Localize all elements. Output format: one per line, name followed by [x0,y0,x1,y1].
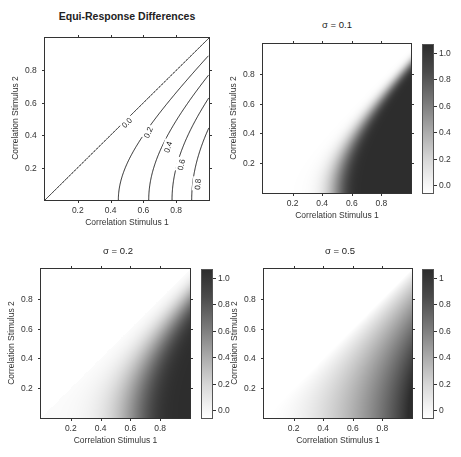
y-tick-mark [42,70,45,71]
y-tick-mark-right [412,299,415,300]
x-tick-mark [382,418,383,421]
x-tick-label: 0.2 [287,198,299,208]
y-tick-label: 0.8 [25,65,37,75]
x-tick-label: 0.8 [154,423,166,433]
colorbar-tick-mark [434,185,437,186]
y-tick-mark-right [190,329,193,330]
panel-title: σ = 0.2 [103,245,133,256]
x-tick-label: 0.2 [288,423,300,433]
colorbar-tick-label: 0.8 [439,74,451,84]
y-axis-label: Correlation Stimulus 2 [228,73,238,163]
x-tick-mark-top [176,35,177,38]
x-axis-label: Correlation Stimulus 1 [296,435,380,445]
y-tick-label: 0.6 [243,99,255,109]
x-tick-label: 0.4 [95,423,107,433]
panel-title: σ = 0.1 [322,19,352,30]
x-axis-label: Correlation Stimulus 1 [295,210,379,220]
x-tick-label: 0.6 [124,423,136,433]
x-tick-mark-top [353,266,354,269]
y-tick-label: 0.2 [21,383,33,393]
panel-title: Equi-Response Differences [59,10,196,22]
y-tick-mark-right [412,329,415,330]
y-tick-mark-right [190,358,193,359]
x-tick-mark-top [101,266,102,269]
panel-title: σ = 0.5 [325,245,355,256]
y-tick-mark [261,358,264,359]
heatmap-plot [40,268,191,419]
x-tick-label: 0.4 [317,423,329,433]
y-tick-mark [38,329,41,330]
y-tick-label: 0.6 [21,324,33,334]
y-tick-mark [261,299,264,300]
x-tick-mark [78,200,79,203]
y-tick-mark-right [411,133,414,134]
x-tick-mark [143,200,144,203]
colorbar-tick-mark [434,159,437,160]
x-tick-mark [160,418,161,421]
x-tick-mark [322,193,323,196]
y-tick-mark [260,163,263,164]
y-tick-mark [260,104,263,105]
colorbar-tick-label: 0.0 [439,180,451,190]
colorbar-tick-label: 0.6 [439,326,451,336]
y-axis-label: Correlation Stimulus 2 [10,73,20,163]
y-tick-mark [261,388,264,389]
x-tick-mark-top [381,41,382,44]
y-tick-mark-right [190,299,193,300]
x-tick-mark [381,193,382,196]
x-axis-label: Correlation Stimulus 1 [74,435,158,445]
y-tick-mark [42,103,45,104]
y-tick-mark [260,133,263,134]
colorbar-tick-label: 0.4 [439,352,451,362]
y-tick-mark-right [411,74,414,75]
y-tick-label: 0.4 [21,353,33,363]
x-tick-mark-top [111,35,112,38]
x-tick-mark [353,418,354,421]
x-tick-label: 0.6 [137,205,149,215]
y-tick-label: 0.4 [243,128,255,138]
x-tick-mark [294,418,295,421]
y-tick-mark [42,168,45,169]
x-tick-mark [71,418,72,421]
y-tick-mark-right [209,135,212,136]
colorbar-tick-mark [213,384,216,385]
x-tick-mark-top [160,266,161,269]
x-tick-mark-top [322,41,323,44]
x-tick-mark-top [71,266,72,269]
colorbar-tick-mark [213,304,216,305]
y-tick-label: 0.8 [244,294,256,304]
colorbar-tick-mark [434,53,437,54]
colorbar-tick-mark [434,357,437,358]
y-tick-label: 0.4 [25,130,37,140]
colorbar-tick-mark [213,410,216,411]
colorbar-tick-mark [434,410,437,411]
y-tick-label: 0.2 [244,383,256,393]
x-axis-label: Correlation Stimulus 1 [85,217,169,227]
y-tick-label: 0.2 [25,163,37,173]
x-tick-label: 0.8 [375,198,387,208]
colorbar-tick-mark [434,79,437,80]
y-tick-label: 0.4 [244,353,256,363]
x-tick-mark [293,193,294,196]
x-tick-label: 0.6 [346,198,358,208]
colorbar [422,269,434,419]
x-tick-mark-top [294,266,295,269]
y-tick-mark-right [411,163,414,164]
y-axis-label: Correlation Stimulus 2 [229,298,239,388]
x-tick-mark [111,200,112,203]
x-tick-mark [352,193,353,196]
colorbar-tick-label: 0.2 [439,379,451,389]
x-tick-mark-top [78,35,79,38]
y-tick-mark-right [209,70,212,71]
x-tick-mark-top [293,41,294,44]
colorbar-tick-mark [213,331,216,332]
colorbar-tick-mark [434,278,437,279]
heatmap-plot [262,43,412,194]
colorbar-tick-label: 0.8 [439,299,451,309]
colorbar-tick-label: 0 [439,405,444,415]
y-tick-mark [42,135,45,136]
x-tick-mark [176,200,177,203]
y-tick-label: 0.2 [243,158,255,168]
y-tick-label: 0.6 [25,98,37,108]
y-tick-mark-right [190,388,193,389]
